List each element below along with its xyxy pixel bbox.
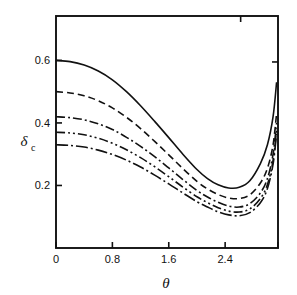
curve-1 (56, 60, 277, 188)
plot-frame (56, 16, 278, 248)
curve-2 (56, 92, 277, 199)
plot-box (56, 16, 278, 248)
x-tick-label-0: 0 (53, 253, 59, 265)
y-axis-title-subscript: c (31, 142, 36, 153)
data-curves (56, 60, 277, 216)
curve-5 (56, 134, 277, 216)
x-tick-label-3: 2.4 (217, 253, 232, 265)
y-tick-label-0: 0.2 (35, 179, 50, 191)
figure-container: 00.81.62.40.20.40.6 θ δ c (0, 0, 297, 295)
y-axis-title: δ (21, 133, 29, 149)
x-tick-label-1: 0.8 (105, 253, 120, 265)
axis-ticks (56, 16, 278, 248)
x-axis-title: θ (162, 275, 170, 291)
curve-4 (56, 130, 277, 212)
y-tick-label-2: 0.6 (35, 54, 50, 66)
x-tick-label-2: 1.6 (161, 253, 176, 265)
line-chart: 00.81.62.40.20.40.6 θ δ c (0, 0, 297, 295)
curve-3 (56, 117, 277, 208)
y-tick-label-1: 0.4 (35, 117, 50, 129)
axis-tick-labels: 00.81.62.40.20.40.6 (35, 54, 233, 265)
